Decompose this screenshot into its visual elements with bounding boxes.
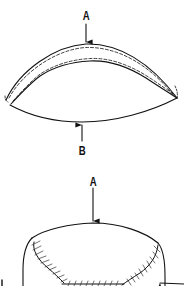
label-a-bottom: A (90, 176, 97, 188)
bottom-figure (2, 188, 184, 286)
right-seam-hatches (127, 246, 160, 285)
left-seam-hatches (32, 241, 67, 282)
top-figure (5, 24, 177, 141)
dome-left-side (23, 238, 32, 286)
bottom-curve (10, 98, 177, 122)
diagram-canvas (0, 0, 184, 286)
inner-stitch-line (13, 58, 175, 101)
label-a-top: A (83, 10, 90, 22)
dome-top-curve (32, 223, 158, 243)
arrow-right-side (160, 283, 184, 284)
dome-right-side (158, 243, 165, 286)
outer-stitch-line (9, 47, 174, 98)
label-b-top: B (79, 145, 86, 157)
